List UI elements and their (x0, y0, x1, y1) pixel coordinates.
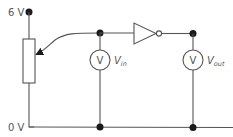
circuit-diagram: 6 V V Vin V Vout 0 V (0, 0, 233, 137)
ground-label: 0 V (8, 122, 25, 133)
not-gate-bubble (156, 31, 161, 36)
ground-node-in (97, 124, 104, 131)
vin-label: Vin (114, 55, 127, 68)
supply-label: 6 V (8, 7, 25, 18)
ground-node-out (190, 124, 197, 131)
not-gate (134, 23, 156, 44)
vout-label: Vout (207, 55, 225, 68)
wiper-arrow (37, 33, 100, 54)
pot-ground-wire (29, 83, 34, 127)
potentiometer (23, 39, 35, 83)
ground-rail (29, 127, 233, 128)
voltmeter-in-symbol: V (97, 55, 104, 66)
voltmeter-out-symbol: V (190, 55, 197, 66)
